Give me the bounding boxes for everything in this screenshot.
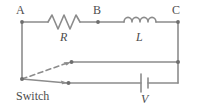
- switch-blade-dashed: [22, 62, 70, 79]
- label-resistor: R: [60, 31, 67, 43]
- node-dot-c: [176, 20, 180, 24]
- node-dot-switch-contact-upper: [70, 60, 74, 64]
- node-dot-switch-contact-lower: [67, 81, 71, 85]
- label-inductor: L: [136, 31, 143, 43]
- label-node-c: C: [172, 4, 180, 16]
- switch-blade-solid: [22, 79, 67, 83]
- node-dot-right-mid: [176, 60, 180, 64]
- node-dot-a: [20, 20, 24, 24]
- resistor-symbol: [48, 15, 80, 29]
- label-switch: Switch: [16, 90, 49, 102]
- node-dot-b: [96, 20, 100, 24]
- node-dot-switch-pivot: [20, 77, 24, 81]
- label-node-a: A: [16, 4, 25, 16]
- circuit-diagram: A B C R L V Switch: [0, 0, 198, 110]
- inductor-symbol: [124, 17, 156, 22]
- label-node-b: B: [93, 4, 101, 16]
- label-battery: V: [141, 93, 148, 105]
